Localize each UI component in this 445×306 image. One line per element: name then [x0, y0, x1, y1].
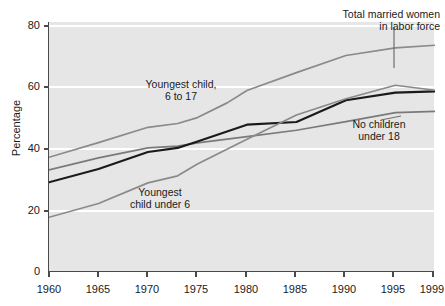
x-tick-label-1999: 1999	[412, 283, 445, 295]
annotation-no-children-line2: under 18	[336, 130, 422, 142]
x-tick-mark-1965	[97, 272, 99, 277]
y-tick-label-40: 40	[14, 142, 40, 154]
annotation-no-children: No children under 18	[336, 118, 422, 142]
y-axis-label: Percentage	[10, 88, 22, 168]
x-tick-mark-1990	[343, 272, 345, 277]
y-tick-label-0: 0	[14, 265, 40, 277]
x-tick-mark-1980	[245, 272, 247, 277]
y-tick-label-80: 80	[14, 19, 40, 31]
annotation-no-children-line1: No children	[336, 118, 422, 130]
x-tick-mark-1970	[146, 272, 148, 277]
x-tick-label-1985: 1985	[275, 283, 315, 295]
x-tick-mark-1985	[294, 272, 296, 277]
annotation-youngest-6-to-17-line1: Youngest child,	[133, 78, 229, 90]
x-tick-mark-1960	[48, 272, 50, 277]
annotation-youngest-under-6: Youngest child under 6	[110, 186, 210, 210]
x-tick-label-1980: 1980	[226, 283, 266, 295]
annotation-total-married-women: Total married women in labor force	[308, 8, 440, 32]
annotation-youngest-6-to-17: Youngest child, 6 to 17	[133, 78, 229, 102]
annotation-youngest-under-6-line2: child under 6	[110, 198, 210, 210]
annotation-youngest-under-6-line1: Youngest	[110, 186, 210, 198]
x-tick-mark-1975	[195, 272, 197, 277]
x-tick-label-1990: 1990	[324, 283, 364, 295]
x-tick-label-1975: 1975	[176, 283, 216, 295]
annotation-youngest-6-to-17-line2: 6 to 17	[133, 90, 229, 102]
y-tick-label-60: 60	[14, 80, 40, 92]
series-line-3	[49, 85, 435, 217]
plot-area	[48, 22, 434, 272]
annotation-total-married-women-line1: Total married women	[308, 8, 440, 20]
y-tick-label-20: 20	[14, 204, 40, 216]
x-tick-label-1965: 1965	[78, 283, 118, 295]
line-chart: Percentage 80 60 40 20 0 1960 1965 1970 …	[0, 0, 445, 306]
x-tick-label-1960: 1960	[29, 283, 69, 295]
x-tick-mark-1999	[432, 272, 434, 277]
series-lines	[49, 22, 435, 272]
x-tick-label-1970: 1970	[127, 283, 167, 295]
x-tick-mark-1995	[392, 272, 394, 277]
x-tick-label-1995: 1995	[373, 283, 413, 295]
annotation-total-married-women-line2: in labor force	[308, 20, 440, 32]
